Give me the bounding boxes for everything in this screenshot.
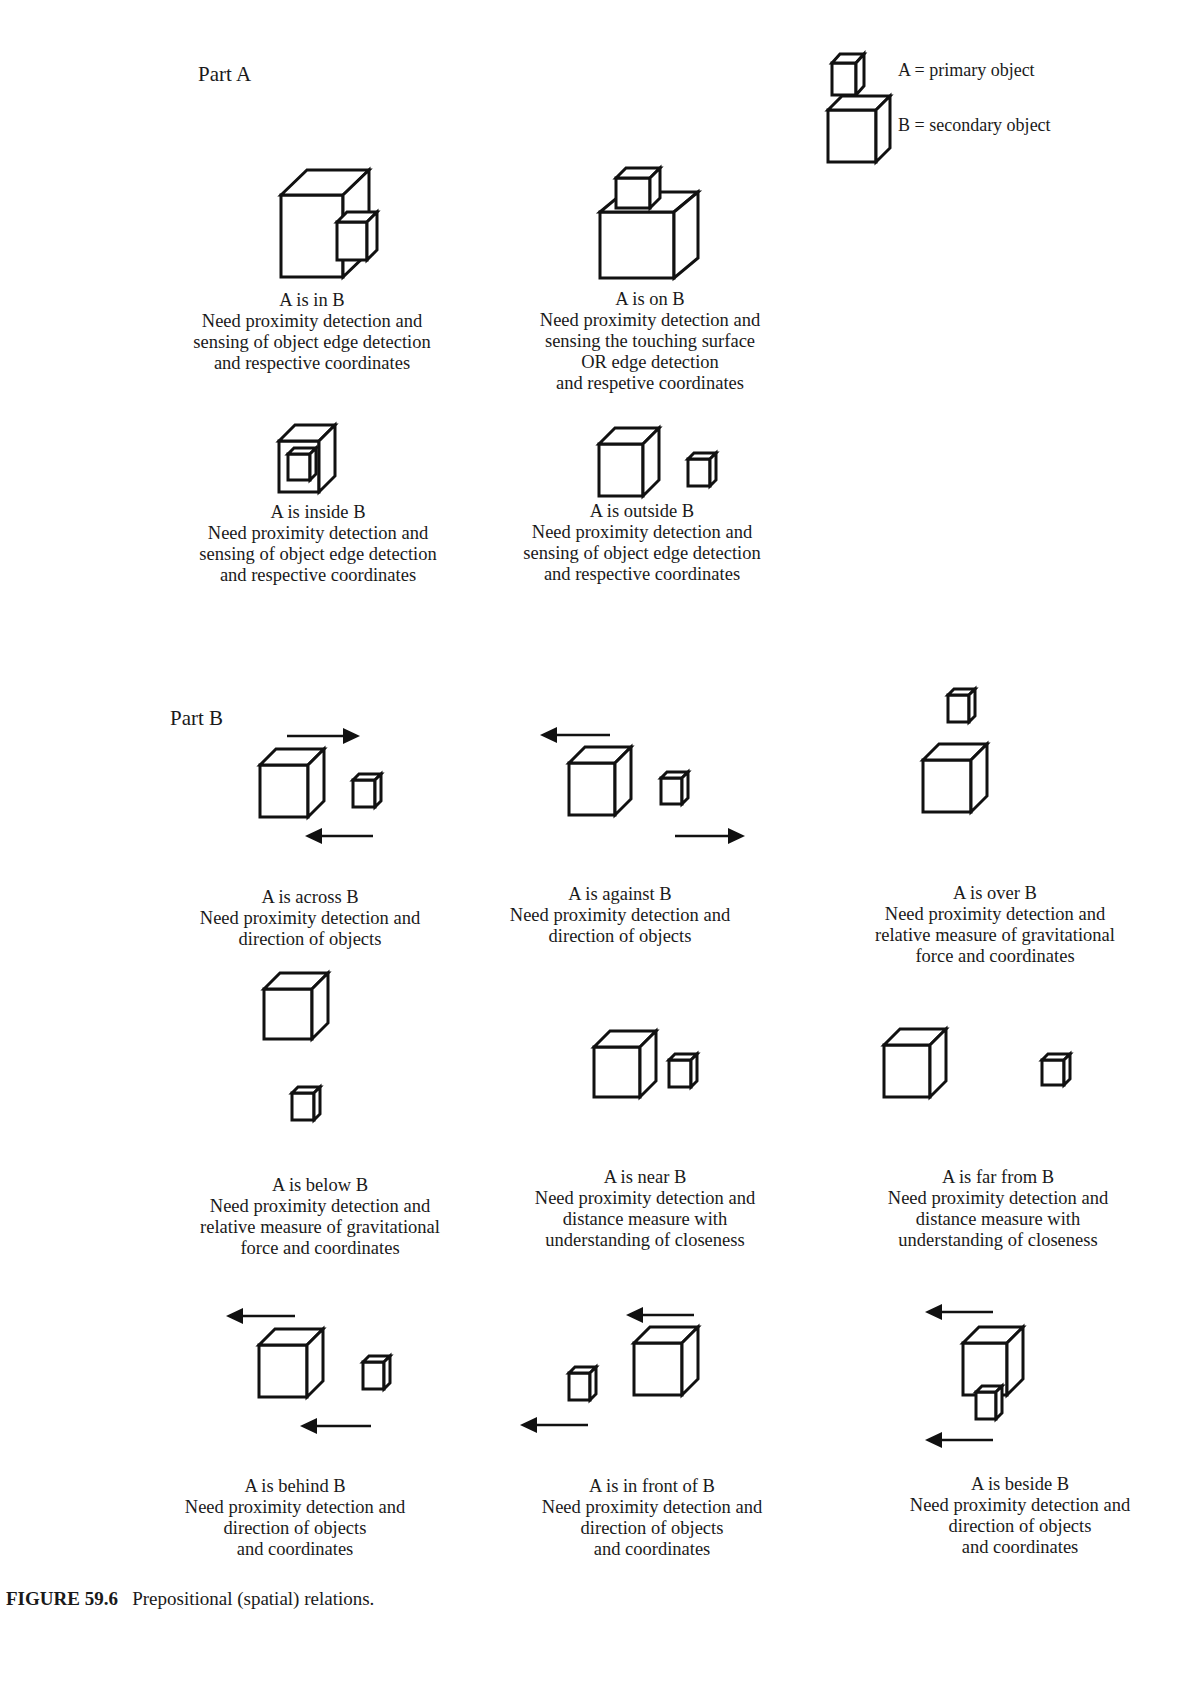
caption-line: Need proximity detection and	[160, 908, 460, 929]
caption-line: and coordinates	[870, 1537, 1170, 1558]
legend-primary-label: A = primary object	[898, 60, 1035, 81]
caption-title: A is on B	[500, 289, 800, 310]
left-arrow-icon	[540, 727, 610, 743]
caption-line: and respective coordinates	[492, 564, 792, 585]
cube-inside-b-icon	[279, 425, 335, 492]
left-arrow-icon	[305, 828, 373, 844]
caption-line: Need proximity detection and	[870, 1495, 1170, 1516]
caption-line: Need proximity detection and	[835, 904, 1155, 925]
caption-title: A is far from B	[848, 1167, 1148, 1188]
caption-below-b: A is below B Need proximity detection an…	[160, 1175, 480, 1259]
caption-title: A is behind B	[145, 1476, 445, 1497]
cube-outside-b-icon	[599, 428, 716, 496]
caption-far-from-b: A is far from B Need proximity detection…	[848, 1167, 1148, 1251]
caption-in-b: A is in B Need proximity detection and s…	[162, 290, 462, 374]
caption-across-b: A is across B Need proximity detection a…	[160, 887, 460, 950]
cube-across-b-icon	[260, 749, 381, 817]
caption-line: and coordinates	[502, 1539, 802, 1560]
caption-over-b: A is over B Need proximity detection and…	[835, 883, 1155, 967]
caption-title: A is below B	[160, 1175, 480, 1196]
caption-line: Need proximity detection and	[848, 1188, 1148, 1209]
caption-line: distance measure with	[848, 1209, 1148, 1230]
cube-in-front-of-b-icon	[569, 1327, 698, 1400]
right-arrow-icon	[287, 728, 360, 744]
caption-behind-b: A is behind B Need proximity detection a…	[145, 1476, 445, 1560]
caption-line: direction of objects	[160, 929, 460, 950]
left-arrow-icon	[226, 1308, 295, 1324]
caption-line: and respetive coordinates	[500, 373, 800, 394]
cube-beside-b-icon	[963, 1327, 1023, 1419]
caption-in-front-of-b: A is in front of B Need proximity detect…	[502, 1476, 802, 1560]
figure-caption: FIGURE 59.6 Prepositional (spatial) rela…	[6, 1588, 374, 1610]
caption-line: Need proximity detection and	[168, 523, 468, 544]
caption-title: A is beside B	[870, 1474, 1170, 1495]
cube-over-b-icon	[923, 689, 987, 812]
legend-primary-cube-icon	[832, 54, 864, 95]
caption-line: and respective coordinates	[162, 353, 462, 374]
caption-line: Need proximity detection and	[162, 311, 462, 332]
caption-line: Need proximity detection and	[145, 1497, 445, 1518]
part-b-label: Part B	[170, 706, 223, 731]
legend-secondary-cube-icon	[828, 96, 890, 162]
caption-line: Need proximity detection and	[495, 1188, 795, 1209]
left-arrow-icon	[626, 1307, 694, 1323]
caption-on-b: A is on B Need proximity detection and s…	[500, 289, 800, 394]
caption-line: force and coordinates	[835, 946, 1155, 967]
caption-line: Need proximity detection and	[500, 310, 800, 331]
caption-line: sensing of object edge detection	[168, 544, 468, 565]
caption-outside-b: A is outside B Need proximity detection …	[492, 501, 792, 585]
diagram-drawing	[0, 0, 1198, 1694]
caption-title: A is outside B	[492, 501, 792, 522]
caption-beside-b: A is beside B Need proximity detection a…	[870, 1474, 1170, 1558]
caption-title: A is inside B	[168, 502, 468, 523]
caption-line: direction of objects	[470, 926, 770, 947]
caption-line: distance measure with	[495, 1209, 795, 1230]
caption-title: A is in B	[162, 290, 462, 311]
caption-line: relative measure of gravitational	[835, 925, 1155, 946]
left-arrow-icon	[925, 1432, 993, 1448]
caption-line: Need proximity detection and	[160, 1196, 480, 1217]
caption-line: direction of objects	[145, 1518, 445, 1539]
caption-inside-b: A is inside B Need proximity detection a…	[168, 502, 468, 586]
cube-below-b-icon	[264, 973, 328, 1120]
caption-near-b: A is near B Need proximity detection and…	[495, 1167, 795, 1251]
caption-line: Need proximity detection and	[470, 905, 770, 926]
caption-title: A is across B	[160, 887, 460, 908]
caption-line: force and coordinates	[160, 1238, 480, 1259]
caption-against-b: A is against B Need proximity detection …	[470, 884, 770, 947]
legend-secondary-label: B = secondary object	[898, 115, 1051, 136]
caption-line: OR edge detection	[500, 352, 800, 373]
caption-line: and coordinates	[145, 1539, 445, 1560]
caption-line: sensing of object edge detection	[162, 332, 462, 353]
caption-line: sensing the touching surface	[500, 331, 800, 352]
caption-title: A is near B	[495, 1167, 795, 1188]
caption-title: A is over B	[835, 883, 1155, 904]
part-a-label: Part A	[198, 62, 251, 87]
caption-title: A is against B	[470, 884, 770, 905]
cube-in-b-icon	[281, 170, 377, 277]
caption-line: relative measure of gravitational	[160, 1217, 480, 1238]
caption-line: Need proximity detection and	[502, 1497, 802, 1518]
caption-line: direction of objects	[870, 1516, 1170, 1537]
cube-against-b-icon	[569, 747, 688, 815]
caption-line: direction of objects	[502, 1518, 802, 1539]
caption-line: understanding of closeness	[495, 1230, 795, 1251]
cube-behind-b-icon	[259, 1329, 390, 1397]
caption-line: Need proximity detection and	[492, 522, 792, 543]
left-arrow-icon	[925, 1304, 993, 1320]
caption-title: A is in front of B	[502, 1476, 802, 1497]
caption-line: understanding of closeness	[848, 1230, 1148, 1251]
right-arrow-icon	[675, 828, 745, 844]
caption-line: and respective coordinates	[168, 565, 468, 586]
figure-caption-text: Prepositional (spatial) relations.	[132, 1588, 374, 1609]
figure-number: FIGURE 59.6	[6, 1588, 118, 1609]
left-arrow-icon	[520, 1417, 588, 1433]
caption-line: sensing of object edge detection	[492, 543, 792, 564]
cube-near-b-icon	[594, 1031, 697, 1097]
cube-far-from-b-icon	[884, 1029, 1070, 1097]
cube-on-b-icon	[600, 168, 698, 278]
left-arrow-icon	[300, 1418, 371, 1434]
